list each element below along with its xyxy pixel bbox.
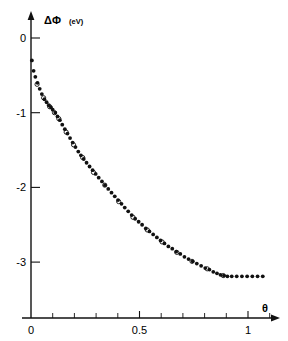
data-point-filled-circle bbox=[178, 252, 182, 256]
data-point-filled-circle bbox=[199, 264, 203, 268]
data-point-filled-circle bbox=[85, 161, 89, 165]
data-point-filled-circle bbox=[163, 242, 167, 246]
data-point-filled-circle bbox=[113, 194, 117, 198]
data-point-filled-circle bbox=[155, 236, 159, 240]
data-point-filled-circle bbox=[140, 223, 144, 227]
data-point-filled-circle bbox=[100, 180, 104, 184]
x-axis-label-symbol: θ bbox=[262, 302, 268, 314]
data-point-filled-circle bbox=[148, 230, 152, 234]
data-point-filled-circle bbox=[88, 165, 92, 169]
data-point-filled-circle bbox=[215, 271, 219, 275]
data-point-filled-circle bbox=[56, 115, 60, 119]
data-point-filled-circle bbox=[116, 198, 120, 202]
data-point-filled-circle bbox=[235, 274, 239, 278]
data-point-filled-circle bbox=[38, 87, 42, 91]
data-point-filled-circle bbox=[174, 250, 178, 254]
data-point-filled-circle bbox=[53, 111, 57, 115]
data-point-filled-circle bbox=[240, 274, 244, 278]
data-point-filled-circle bbox=[60, 123, 64, 127]
data-point-filled-circle bbox=[256, 274, 260, 278]
data-point-filled-circle bbox=[103, 183, 107, 187]
data-point-filled-circle bbox=[133, 217, 137, 221]
y-tick-label: -3 bbox=[16, 256, 26, 268]
x-tick-label: 0.5 bbox=[132, 324, 147, 336]
data-point-filled-circle bbox=[120, 202, 124, 206]
x-tick-label: 0 bbox=[28, 324, 34, 336]
data-point-filled-circle bbox=[97, 176, 101, 180]
data-point-filled-circle bbox=[51, 108, 55, 112]
data-point-filled-circle bbox=[126, 209, 130, 213]
data-series-filled-circles bbox=[30, 59, 265, 279]
y-ticklabel-group: 0-1-2-3 bbox=[16, 32, 26, 268]
x-axis-arrowhead bbox=[271, 315, 280, 322]
data-point-filled-circle bbox=[91, 168, 95, 172]
figure-canvas: 0-1-2-3 00.51 ΔΦ (eV) θ bbox=[0, 0, 288, 341]
data-point-filled-circle bbox=[187, 257, 191, 261]
data-point-filled-circle bbox=[74, 145, 78, 149]
x-axis-group bbox=[22, 315, 280, 322]
y-tick-label: -1 bbox=[16, 107, 26, 119]
data-point-filled-circle bbox=[30, 59, 34, 63]
data-point-filled-circle bbox=[71, 141, 75, 145]
data-point-filled-circle bbox=[166, 245, 170, 249]
data-point-filled-circle bbox=[79, 153, 83, 157]
data-point-filled-circle bbox=[58, 118, 62, 122]
data-point-filled-circle bbox=[203, 266, 207, 270]
y-tick-label: 0 bbox=[20, 32, 26, 44]
data-point-filled-circle bbox=[151, 233, 155, 237]
data-point-filled-circle bbox=[222, 274, 226, 278]
x-ticklabel-group: 00.51 bbox=[28, 324, 251, 336]
plot-svg: 0-1-2-3 00.51 ΔΦ (eV) θ bbox=[0, 0, 288, 341]
data-point-filled-circle bbox=[94, 172, 98, 176]
data-point-filled-circle bbox=[82, 157, 86, 161]
y-axis-arrowhead bbox=[28, 11, 35, 20]
y-axis-group bbox=[28, 11, 35, 318]
data-point-filled-circle bbox=[170, 247, 174, 251]
data-point-filled-circle bbox=[110, 191, 114, 195]
data-series-open-circles bbox=[35, 82, 225, 277]
data-point-filled-circle bbox=[76, 150, 80, 154]
data-point-filled-circle bbox=[225, 274, 229, 278]
data-point-filled-circle bbox=[106, 187, 110, 191]
data-point-filled-circle bbox=[36, 81, 40, 85]
y-tick-label: -2 bbox=[16, 181, 26, 193]
data-point-filled-circle bbox=[207, 268, 211, 272]
data-point-filled-circle bbox=[40, 92, 44, 96]
x-tick-label: 1 bbox=[245, 324, 251, 336]
y-axis-label-symbol: ΔΦ bbox=[44, 14, 61, 26]
data-point-filled-circle bbox=[130, 213, 134, 217]
data-point-filled-circle bbox=[144, 227, 148, 231]
data-point-filled-circle bbox=[63, 127, 67, 131]
data-point-filled-circle bbox=[195, 262, 199, 266]
data-point-filled-circle bbox=[245, 274, 249, 278]
data-point-filled-circle bbox=[183, 255, 187, 259]
data-point-filled-circle bbox=[32, 69, 36, 73]
data-point-filled-circle bbox=[137, 220, 141, 224]
y-axis-label-unit: (eV) bbox=[69, 17, 84, 26]
data-point-filled-circle bbox=[33, 75, 37, 79]
data-point-filled-circle bbox=[68, 136, 72, 140]
data-point-filled-circle bbox=[219, 273, 223, 277]
data-point-filled-circle bbox=[159, 239, 163, 243]
data-point-filled-circle bbox=[250, 274, 254, 278]
data-point-filled-circle bbox=[261, 274, 265, 278]
data-point-filled-circle bbox=[66, 132, 70, 136]
data-point-filled-circle bbox=[191, 259, 195, 263]
data-point-filled-circle bbox=[211, 270, 215, 274]
x-tick-group bbox=[53, 311, 270, 318]
data-point-filled-circle bbox=[230, 274, 234, 278]
data-point-filled-circle bbox=[123, 206, 127, 210]
